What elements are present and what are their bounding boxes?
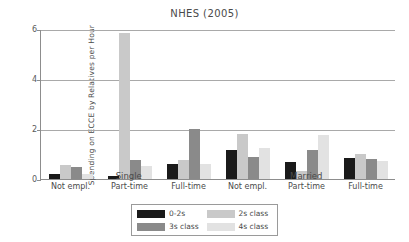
bar [248,157,259,180]
x-tick-label: Not empl. [218,182,277,191]
legend-item[interactable]: 0-2s [135,209,205,218]
y-tick-mark [37,180,41,181]
y-tick-label: 4 [23,75,37,84]
legend-swatch [137,210,165,218]
bar-group: Part-time [100,30,159,179]
bar-group: Not empl. [218,30,277,179]
plot-area: Spending on ECCE by Relatives per Hour 0… [40,30,395,180]
x-tick-label: Full-time [336,182,395,191]
legend-label: 0-2s [169,209,185,218]
bar-group: Full-time [159,30,218,179]
legend-item[interactable]: 2s class [205,209,275,218]
bar-groups: Not empl.Part-timeFull-timeNot empl.Part… [41,30,395,179]
x-tick-label: Part-time [277,182,336,191]
chart-title: NHES (2005) [0,8,409,19]
bar [119,33,130,179]
legend-label: 4s class [239,222,269,231]
chart-container: NHES (2005) Spending on ECCE by Relative… [0,0,409,242]
bar [377,161,388,179]
legend-label: 2s class [239,209,269,218]
bar [60,165,71,179]
x-tick-label: Full-time [159,182,218,191]
bar [189,129,200,179]
bar [71,167,82,179]
chart-legend: 0-2s2s class3s class4s class [131,204,278,236]
bar [366,159,377,179]
supergroup-label: Single [89,171,169,181]
bar [226,150,237,179]
bar-group: Not empl. [41,30,100,179]
legend-item[interactable]: 4s class [205,222,275,231]
bar [237,134,248,180]
bar [49,174,60,179]
legend-swatch [137,223,165,231]
y-tick-label: 6 [23,25,37,34]
x-tick-label: Not empl. [41,182,100,191]
x-tick-label: Part-time [100,182,159,191]
bar [355,154,366,179]
bar-group: Full-time [336,30,395,179]
legend-swatch [207,210,235,218]
legend-label: 3s class [169,222,199,231]
legend-item[interactable]: 3s class [135,222,205,231]
bar [200,164,211,180]
y-tick-label: 0 [23,175,37,184]
bar [178,160,189,180]
supergroup-label: Married [266,171,346,181]
bar-group: Part-time [277,30,336,179]
legend-swatch [207,223,235,231]
y-tick-label: 2 [23,125,37,134]
